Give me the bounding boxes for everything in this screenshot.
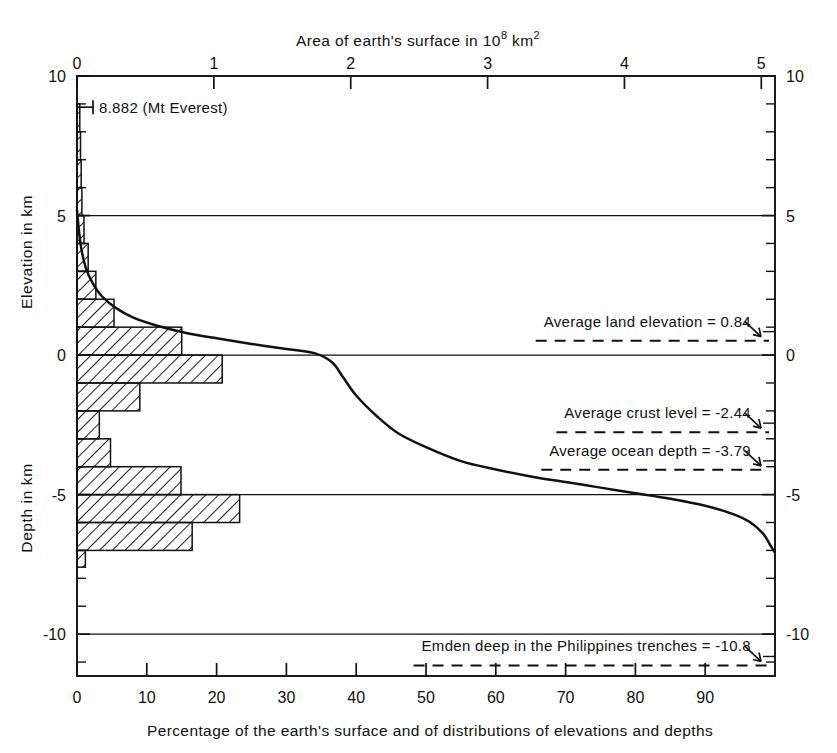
histogram-bar [77, 411, 99, 439]
histogram-bar [77, 383, 140, 411]
histogram-bars [77, 104, 240, 567]
left-axis-label-upper: Elevation in km [18, 195, 35, 309]
bottom-axis-label: Percentage of the earth's surface and of… [147, 722, 713, 739]
top-axis-label: Area of earth's surface in 108 km2 [296, 29, 540, 49]
bottom-axis-title: Percentage of the earth's surface and of… [147, 722, 713, 739]
histogram-bar [77, 550, 85, 567]
left-axis-label-lower: Depth in km [18, 463, 35, 552]
histogram-bar [77, 104, 80, 132]
bottom-axis-tick-label: 60 [487, 689, 505, 706]
annotation-emden-deep: Emden deep in the Philippines trenches =… [422, 637, 751, 654]
histogram-bar [77, 523, 192, 551]
top-axis-tick-label: 5 [757, 55, 766, 72]
right-axis-tick-label: 5 [786, 208, 795, 225]
histogram-bar [77, 327, 182, 355]
bottom-axis-tick-label: 90 [696, 689, 714, 706]
histogram-bar [77, 495, 240, 523]
annotation-average-crust-level: Average crust level = -2.44 [564, 404, 751, 421]
right-axis-tick-label: -10 [786, 626, 809, 643]
gridlines [77, 216, 775, 635]
bottom-axis-tick-label: 30 [278, 689, 296, 706]
bottom-axis-tick-label: 80 [627, 689, 645, 706]
top-axis-tick-label: 0 [73, 55, 82, 72]
bottom-axis-tick-label: 40 [347, 689, 365, 706]
top-axis-tick-label: 1 [209, 55, 218, 72]
left-axis-tick-label: 10 [48, 68, 66, 85]
right-axis-tick-label: -5 [786, 487, 800, 504]
left-axis-titles: Elevation in km Depth in km [18, 195, 35, 553]
top-axis-tick-label: 4 [620, 55, 629, 72]
left-axis-tick-label: -5 [52, 487, 66, 504]
histogram-bar [77, 355, 222, 383]
top-axis-tick-label: 3 [483, 55, 492, 72]
histogram-bar [77, 132, 80, 160]
bottom-axis-tick-label: 20 [208, 689, 226, 706]
top-axis-tick-label: 2 [346, 55, 355, 72]
right-axis-tick-label: 10 [786, 68, 804, 85]
top-axis-title: Area of earth's surface in 108 km2 [296, 29, 540, 49]
histogram-bar [77, 467, 181, 495]
right-axis-tick-label: 0 [786, 347, 795, 364]
annotation-average-land-elevation: Average land elevation = 0.84 [544, 313, 751, 330]
histogram-bar [77, 160, 81, 188]
bottom-axis-tick-label: 10 [138, 689, 156, 706]
left-axis-tick-label: 5 [57, 208, 66, 225]
left-axis-tick-label: 0 [57, 347, 66, 364]
bottom-axis-tick-label: 50 [417, 689, 435, 706]
annotation-mt-everest: 8.882 (Mt Everest) [99, 99, 228, 116]
annotation-average-ocean-depth: Average ocean depth = -3.79 [549, 442, 751, 459]
hypsometric-curve-chart: 012345010203040506070809010105500-5-5-10… [0, 0, 837, 753]
bottom-axis-tick-label: 70 [557, 689, 575, 706]
left-axis-tick-label: -10 [43, 626, 66, 643]
chart-figure: 012345010203040506070809010105500-5-5-10… [0, 0, 837, 753]
bottom-axis-tick-label: 0 [73, 689, 82, 706]
histogram-bar [77, 439, 111, 467]
